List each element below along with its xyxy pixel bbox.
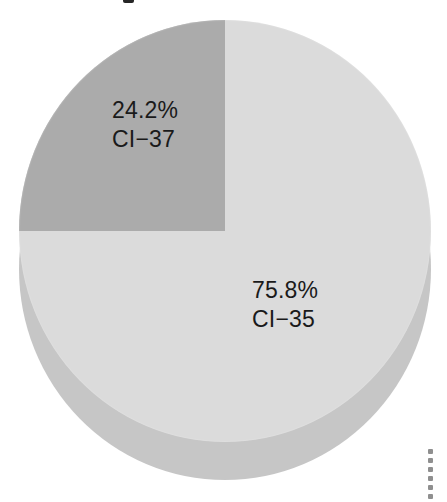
pie-slice-category-ci-35: CI−35	[252, 305, 318, 334]
dotted-rule-dot	[428, 449, 433, 454]
cropped-title-descender	[123, 0, 134, 3]
dotted-margin-rule	[428, 449, 434, 502]
dotted-rule-dot	[428, 467, 433, 472]
pie-slice-percent-ci-37: 24.2%	[112, 96, 178, 125]
pie-slice-category-ci-37: CI−37	[112, 125, 178, 154]
dotted-rule-dot	[428, 494, 433, 499]
pie-slice-label-ci-37: 24.2% CI−37	[112, 96, 178, 154]
dotted-rule-dot	[428, 458, 433, 463]
dotted-rule-dot	[428, 476, 433, 481]
pie-chart-figure: 24.2% CI−37 75.8% CI−35	[0, 0, 447, 502]
pie-slice-label-ci-35: 75.8% CI−35	[252, 276, 318, 334]
pie-top-face	[19, 20, 431, 442]
dotted-rule-dot	[428, 485, 433, 490]
pie-chart	[19, 20, 431, 482]
pie-slice-percent-ci-35: 75.8%	[252, 276, 318, 305]
